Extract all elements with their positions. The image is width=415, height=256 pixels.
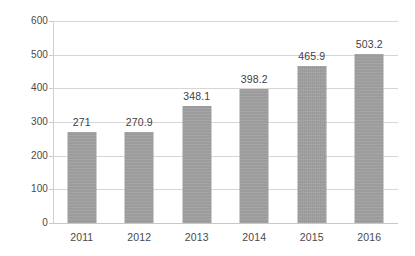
gridline-zero-baseline	[53, 223, 398, 224]
y-tick-label-600: 600	[6, 16, 48, 26]
y-tick-label-100: 100	[6, 184, 48, 194]
x-tick-label-2013: 2013	[168, 232, 226, 243]
bar-slot-2015: 465.9	[283, 21, 341, 223]
bars-layer: 271 270.9 348.1 398.2 465.9 503.2	[53, 21, 398, 223]
bar-2014[interactable]	[240, 89, 269, 223]
bar-2012[interactable]	[125, 132, 154, 223]
bar-slot-2013: 348.1	[168, 21, 226, 223]
x-tick-label-2016: 2016	[341, 232, 399, 243]
bar-value-label-2015: 465.9	[298, 51, 325, 62]
y-axis-tick-labels: 600 500 400 300 200 100 0	[0, 0, 48, 256]
bar-2013[interactable]	[182, 106, 211, 223]
bar-value-label-2016: 503.2	[356, 39, 383, 50]
bar-2016[interactable]	[355, 54, 384, 223]
x-tick-label-2011: 2011	[53, 232, 111, 243]
x-tick-label-2014: 2014	[226, 232, 284, 243]
x-tick-label-2015: 2015	[283, 232, 341, 243]
bar-value-label-2012: 270.9	[126, 117, 153, 128]
y-tick-label-500: 500	[6, 50, 48, 60]
bar-slot-2016: 503.2	[341, 21, 399, 223]
y-tick-mark-0	[49, 223, 53, 224]
x-tick-label-2012: 2012	[111, 232, 169, 243]
y-tick-label-0: 0	[6, 218, 48, 228]
bar-slot-2014: 398.2	[226, 21, 284, 223]
bar-chart: 600 500 400 300 200 100 0 271 270.9 348.…	[0, 0, 415, 256]
bar-value-label-2013: 348.1	[183, 91, 210, 102]
bar-value-label-2014: 398.2	[241, 74, 268, 85]
bar-2015[interactable]	[297, 66, 326, 223]
bar-value-label-2011: 271	[73, 117, 91, 128]
x-axis-tick-labels: 2011 2012 2013 2014 2015 2016	[53, 226, 398, 254]
bar-slot-2012: 270.9	[111, 21, 169, 223]
y-tick-label-300: 300	[6, 117, 48, 127]
y-tick-label-200: 200	[6, 151, 48, 161]
bar-2011[interactable]	[67, 132, 96, 223]
bar-slot-2011: 271	[53, 21, 111, 223]
y-tick-label-400: 400	[6, 83, 48, 93]
